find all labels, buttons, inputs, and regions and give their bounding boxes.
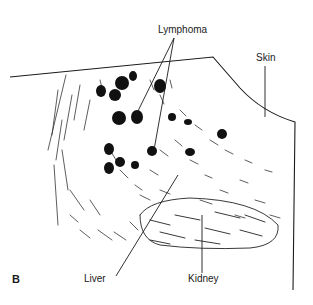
label-lymphoma: Lymphoma xyxy=(158,24,207,35)
lymphoma-leader-1 xyxy=(136,38,174,115)
panel-label: B xyxy=(12,273,20,285)
label-skin: Skin xyxy=(256,52,275,63)
kidney-hatching xyxy=(140,198,278,249)
label-kidney: Kidney xyxy=(188,273,219,284)
leader-lines xyxy=(116,38,265,276)
anatomical-diagram xyxy=(0,0,313,305)
skin-outline xyxy=(10,57,295,290)
lymphoma-leader-2 xyxy=(154,38,174,150)
liver-leader xyxy=(116,175,178,276)
lymphoma-nodules xyxy=(96,71,227,174)
label-liver: Liver xyxy=(84,273,106,284)
